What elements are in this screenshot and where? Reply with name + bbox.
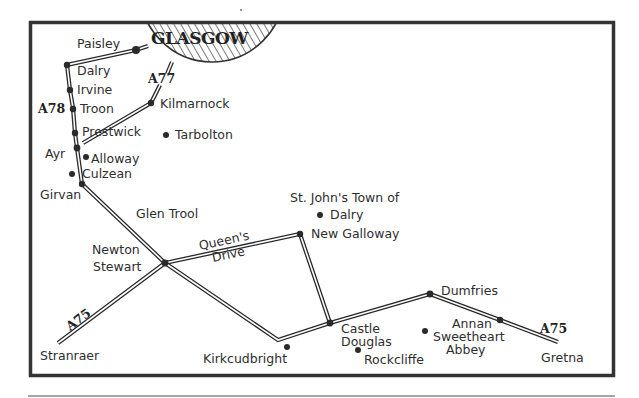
- marker-castle-douglas: [327, 320, 334, 327]
- label-douglas: Douglas: [341, 334, 392, 349]
- label-rockcliffe: Rockcliffe: [364, 352, 424, 367]
- scotland-route-map: GLASGOW A78 A77 A75 A75 Paisley Dalry Ir…: [0, 0, 639, 398]
- marker-ayr: [74, 145, 81, 152]
- label-st-johns-line1: St. John's Town of: [290, 190, 400, 205]
- marker-dalry: [64, 62, 70, 68]
- label-paisley: Paisley: [77, 36, 121, 51]
- label-kilmarnock: Kilmarnock: [160, 96, 230, 111]
- label-kirkcudbright: Kirkcudbright: [203, 351, 287, 366]
- label-st-johns-line2: Dalry: [330, 207, 364, 222]
- label-prestwick: Prestwick: [82, 124, 142, 139]
- label-dalry: Dalry: [77, 63, 111, 78]
- marker-newton-stewart: [162, 260, 169, 267]
- place-markers: [64, 46, 503, 353]
- marker-tarbolton: [163, 132, 169, 138]
- label-troon: Troon: [79, 101, 114, 116]
- label-road-a75-east: A75: [539, 321, 567, 336]
- label-culzean: Culzean: [82, 166, 132, 181]
- marker-new-galloway: [297, 231, 303, 237]
- label-dumfries: Dumfries: [441, 283, 498, 298]
- speck-mark: [240, 9, 242, 11]
- marker-annan: [497, 317, 503, 323]
- marker-kirkcudbright: [284, 344, 290, 350]
- label-stewart: Stewart: [93, 259, 142, 274]
- label-road-a77: A77: [147, 71, 175, 86]
- marker-paisley: [132, 46, 140, 54]
- label-stranraer: Stranraer: [40, 348, 100, 363]
- label-glen-trool: Glen Trool: [136, 206, 198, 221]
- marker-irvine: [67, 87, 73, 93]
- label-tarbolton: Tarbolton: [174, 127, 233, 142]
- label-ayr: Ayr: [45, 146, 66, 161]
- marker-prestwick: [72, 130, 78, 136]
- label-irvine: Irvine: [77, 82, 113, 97]
- marker-alloway: [83, 154, 89, 160]
- marker-dumfries: [427, 291, 434, 298]
- label-gretna: Gretna: [541, 350, 584, 365]
- marker-sweetheart-abbey: [422, 328, 428, 334]
- label-abbey: Abbey: [446, 342, 486, 357]
- label-newton: Newton: [92, 242, 140, 257]
- marker-troon: [70, 106, 76, 112]
- label-alloway: Alloway: [91, 151, 140, 166]
- label-girvan: Girvan: [40, 187, 81, 202]
- label-road-a78: A78: [37, 101, 65, 116]
- label-glasgow: GLASGOW: [151, 28, 249, 48]
- marker-kilmarnock: [148, 100, 154, 106]
- label-new-galloway: New Galloway: [311, 226, 400, 241]
- marker-culzean: [69, 171, 75, 177]
- marker-st-johns-dalry: [317, 212, 323, 218]
